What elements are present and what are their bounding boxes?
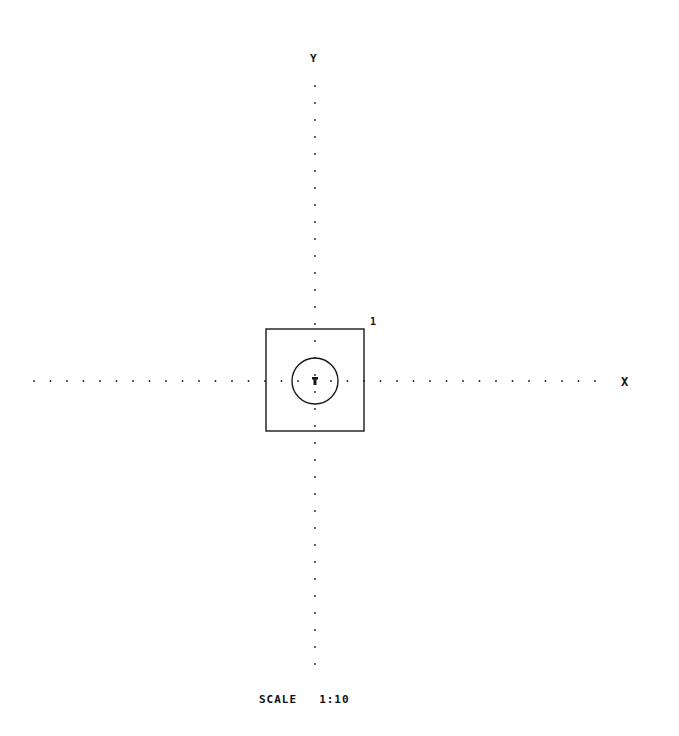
axis-dot (99, 380, 101, 382)
axis-dot (314, 544, 316, 546)
axis-dot (132, 380, 134, 382)
axis-dot (347, 380, 349, 382)
axis-dot (314, 459, 316, 461)
axis-dot (198, 380, 200, 382)
axis-dot (314, 561, 316, 563)
axis-dot (314, 85, 316, 87)
axis-dot (314, 102, 316, 104)
axis-dot (314, 187, 316, 189)
axis-dot (314, 510, 316, 512)
axis-dot (83, 380, 85, 382)
scale-value: 1:10 (319, 693, 350, 706)
axis-dot (314, 306, 316, 308)
axis-dot (495, 380, 497, 382)
axis-dot (314, 119, 316, 121)
axis-dot (314, 340, 316, 342)
axis-dot (314, 629, 316, 631)
axis-dot (314, 493, 316, 495)
axis-dot (182, 380, 184, 382)
axis-dot (314, 442, 316, 444)
axis-dot (314, 272, 316, 274)
axis-dot (578, 380, 580, 382)
axis-dot (396, 380, 398, 382)
axis-dot (215, 380, 217, 382)
y-axis-dotted-line (314, 85, 316, 665)
axis-dot (479, 380, 481, 382)
axis-dot (314, 255, 316, 257)
axis-dot (66, 380, 68, 382)
axis-dot (446, 380, 448, 382)
axis-dot (380, 380, 382, 382)
axis-dot (594, 380, 596, 382)
y-axis-label: Y (310, 52, 317, 65)
axis-dot (314, 578, 316, 580)
axis-dot (314, 221, 316, 223)
part-number-label: 1 (370, 316, 376, 327)
axis-dot (528, 380, 530, 382)
axis-dot (314, 136, 316, 138)
axis-dot (314, 238, 316, 240)
axis-dot (314, 595, 316, 597)
axis-dot (545, 380, 547, 382)
axis-dot (116, 380, 118, 382)
drawing-canvas (0, 0, 679, 736)
axis-dot (314, 425, 316, 427)
x-axis-label: X (621, 375, 628, 389)
axis-dot (429, 380, 431, 382)
axis-dot (248, 380, 250, 382)
axis-dot (149, 380, 151, 382)
axis-dot (50, 380, 52, 382)
axis-dot (314, 204, 316, 206)
axis-dot (314, 391, 316, 393)
axis-dot (165, 380, 167, 382)
axis-dot (314, 663, 316, 665)
axis-dot (314, 408, 316, 410)
axis-dot (314, 527, 316, 529)
scale-annotation: SCALE1:10 (259, 693, 350, 706)
axis-dot (512, 380, 514, 382)
axis-dot (413, 380, 415, 382)
axis-dot (314, 323, 316, 325)
axis-dot (297, 380, 299, 382)
axis-dot (561, 380, 563, 382)
axis-dot (314, 289, 316, 291)
axis-dot (314, 646, 316, 648)
axis-dot (462, 380, 464, 382)
axis-dot (314, 374, 316, 376)
axis-dot (33, 380, 35, 382)
axis-dot (314, 170, 316, 172)
axis-dot (314, 476, 316, 478)
axis-dot (231, 380, 233, 382)
axis-dot (281, 380, 283, 382)
origin-marker-icon (312, 377, 318, 385)
axis-dot (330, 380, 332, 382)
axis-dot (314, 153, 316, 155)
scale-label: SCALE (259, 693, 297, 706)
axis-dot (314, 612, 316, 614)
